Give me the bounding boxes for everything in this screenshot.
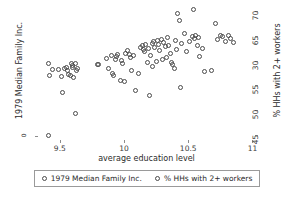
data-point — [187, 39, 192, 44]
x-tick-label: 11 — [248, 144, 258, 153]
data-point — [47, 73, 52, 78]
legend-label: 1979 Median Family Inc. — [51, 174, 142, 183]
data-point — [56, 67, 61, 72]
data-point — [184, 49, 189, 54]
x-axis-title: average education level — [38, 154, 255, 163]
data-point — [174, 47, 179, 52]
data-point — [129, 68, 134, 73]
data-point — [178, 85, 183, 90]
data-point — [46, 61, 51, 66]
data-point — [133, 88, 138, 93]
data-point — [200, 46, 205, 51]
right-y-tick-label: 55 — [251, 85, 260, 95]
data-point — [213, 21, 218, 26]
y-axis-left-title: 1979 Median Family Inc. — [15, 6, 24, 136]
data-point — [120, 61, 125, 66]
data-point — [191, 7, 196, 12]
y-axis-right-title: % HHs with 2+ workers — [273, 6, 282, 136]
data-point — [231, 40, 236, 45]
data-point — [177, 18, 182, 23]
data-point — [59, 74, 64, 79]
data-point — [175, 11, 180, 16]
data-point — [71, 75, 76, 80]
legend-label: % HHs with 2+ workers — [164, 174, 252, 183]
data-point — [131, 53, 136, 58]
legend-marker-icon — [155, 176, 160, 181]
data-point — [202, 69, 207, 74]
data-point — [145, 60, 150, 65]
data-point — [46, 133, 51, 138]
data-point — [73, 61, 78, 66]
data-point — [195, 43, 200, 48]
right-y-tick-label: 45 — [251, 135, 260, 145]
data-point — [106, 66, 111, 71]
data-point — [168, 51, 173, 56]
data-point — [50, 67, 55, 72]
data-point — [147, 93, 152, 98]
scatter-plot-figure: 1979 Median Family Inc. % HHs with 2+ wo… — [0, 0, 308, 203]
data-point — [209, 68, 214, 73]
left-y-tick — [35, 136, 38, 137]
chart-legend: 1979 Median Family Inc. % HHs with 2+ wo… — [34, 170, 260, 187]
data-point — [164, 55, 169, 60]
legend-marker-icon — [42, 176, 47, 181]
right-y-tick-label: 70 — [251, 11, 260, 21]
x-tick-label: 9.5 — [54, 144, 66, 153]
data-point — [115, 52, 120, 57]
x-tick — [188, 140, 189, 143]
data-point — [122, 79, 127, 84]
data-point — [96, 62, 101, 67]
left-y-tick-label: 0 — [20, 133, 27, 136]
x-tick-label: 10 — [119, 144, 129, 153]
right-y-tick-label: 65 — [251, 35, 260, 45]
data-point — [196, 35, 201, 40]
data-point — [60, 90, 65, 95]
data-point — [172, 66, 177, 71]
x-tick — [124, 140, 125, 143]
data-point — [179, 41, 184, 46]
legend-item-hhs-two-plus-workers[interactable]: % HHs with 2+ workers — [155, 174, 252, 183]
x-tick — [60, 140, 61, 143]
x-tick-label: 10.5 — [180, 144, 197, 153]
data-point — [148, 53, 153, 58]
data-point — [182, 31, 187, 36]
data-point — [146, 46, 151, 51]
right-y-tick-label: 30 — [251, 60, 260, 70]
data-point — [173, 38, 178, 43]
data-point — [111, 73, 116, 78]
legend-item-median-family-inc[interactable]: 1979 Median Family Inc. — [42, 174, 142, 183]
right-y-tick-label: 50 — [251, 110, 260, 120]
data-point — [165, 35, 170, 40]
data-point — [73, 111, 78, 116]
data-point — [157, 48, 162, 53]
data-point — [197, 54, 202, 59]
plot-area — [38, 6, 255, 140]
data-point — [104, 56, 109, 61]
data-point — [154, 59, 159, 64]
data-point — [136, 71, 141, 76]
data-point — [166, 43, 171, 48]
data-point — [150, 64, 155, 69]
data-point — [75, 66, 80, 71]
